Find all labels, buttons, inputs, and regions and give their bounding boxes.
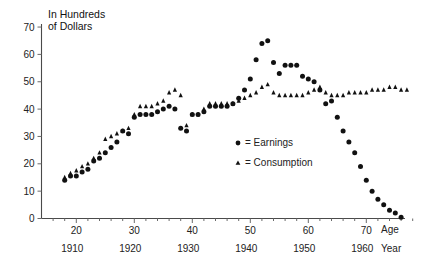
data-point-consumption bbox=[370, 87, 374, 91]
data-point-consumption bbox=[271, 90, 275, 94]
data-point-consumption bbox=[289, 93, 293, 97]
data-point-earnings bbox=[300, 74, 305, 79]
data-point-earnings bbox=[352, 150, 357, 155]
data-point-earnings bbox=[62, 178, 67, 183]
data-point-earnings bbox=[149, 112, 154, 117]
data-point-consumption bbox=[254, 90, 258, 94]
data-point-consumption bbox=[248, 93, 252, 97]
data-point-earnings bbox=[109, 145, 114, 150]
x-tick-label-year-1920: 1920 bbox=[119, 243, 142, 254]
data-point-consumption bbox=[387, 85, 391, 89]
x-tick-label-age-50: 50 bbox=[245, 225, 257, 236]
data-point-consumption bbox=[179, 93, 183, 97]
data-point-earnings bbox=[236, 96, 241, 101]
data-point-consumption bbox=[144, 104, 148, 108]
legend-label-consumption: = Consumption bbox=[245, 157, 313, 168]
x-tick-label-year-1960: 1960 bbox=[351, 243, 374, 254]
data-point-earnings bbox=[132, 115, 137, 120]
data-point-consumption bbox=[306, 90, 310, 94]
chart-figure: In Hundreds of Dollars 010203040506070 2… bbox=[0, 0, 424, 263]
data-point-consumption bbox=[80, 164, 84, 168]
data-point-consumption bbox=[364, 90, 368, 94]
data-point-earnings bbox=[312, 79, 317, 84]
data-point-earnings bbox=[271, 60, 276, 65]
data-point-earnings bbox=[184, 128, 189, 133]
y-tick-label-50: 50 bbox=[23, 76, 35, 87]
series-earnings-points bbox=[62, 38, 403, 219]
x-tick-label-year-1940: 1940 bbox=[235, 243, 258, 254]
data-point-earnings bbox=[248, 77, 253, 82]
data-point-earnings bbox=[370, 189, 375, 194]
data-point-consumption bbox=[283, 93, 287, 97]
x-tick-label-age-60: 60 bbox=[303, 225, 315, 236]
data-point-consumption bbox=[399, 87, 403, 91]
data-point-consumption bbox=[300, 93, 304, 97]
y-axis-ticks: 010203040506070 bbox=[23, 22, 41, 224]
data-point-consumption bbox=[138, 104, 142, 108]
data-point-earnings bbox=[259, 41, 264, 46]
y-tick-label-20: 20 bbox=[23, 158, 35, 169]
data-point-earnings bbox=[364, 178, 369, 183]
data-point-consumption bbox=[155, 101, 159, 105]
data-point-earnings bbox=[335, 115, 340, 120]
data-point-consumption bbox=[97, 150, 101, 154]
data-point-earnings bbox=[265, 38, 270, 43]
data-point-earnings bbox=[114, 139, 119, 144]
data-point-earnings bbox=[375, 197, 380, 202]
data-point-earnings bbox=[201, 109, 206, 114]
y-axis-title-line1: In Hundreds bbox=[48, 8, 105, 20]
data-point-consumption bbox=[312, 87, 316, 91]
data-point-consumption bbox=[74, 168, 78, 172]
data-point-consumption bbox=[115, 131, 119, 135]
x-tick-label-year-1930: 1930 bbox=[177, 243, 200, 254]
y-tick-label-70: 70 bbox=[23, 22, 35, 33]
data-point-consumption bbox=[103, 137, 107, 141]
data-point-earnings bbox=[85, 167, 90, 172]
data-point-consumption bbox=[150, 104, 154, 108]
data-point-earnings bbox=[341, 128, 346, 133]
data-point-earnings bbox=[317, 87, 322, 92]
x-tick-label-year-1950: 1950 bbox=[293, 243, 316, 254]
data-point-consumption bbox=[173, 87, 177, 91]
data-point-consumption bbox=[277, 93, 281, 97]
data-point-earnings bbox=[155, 109, 160, 114]
data-point-earnings bbox=[126, 131, 131, 136]
x-axis-year-title: Year bbox=[381, 243, 402, 254]
x-tick-label-age-40: 40 bbox=[187, 225, 199, 236]
data-point-consumption bbox=[341, 93, 345, 97]
x-tick-label-age-30: 30 bbox=[129, 225, 141, 236]
data-point-consumption bbox=[86, 161, 90, 165]
data-point-consumption bbox=[382, 87, 386, 91]
data-point-earnings bbox=[190, 112, 195, 117]
data-point-consumption bbox=[109, 134, 113, 138]
y-tick-label-0: 0 bbox=[29, 213, 35, 224]
y-axis-title-line2: of Dollars bbox=[48, 20, 92, 32]
data-point-earnings bbox=[80, 170, 85, 175]
data-point-earnings bbox=[225, 104, 230, 109]
x-axis-age-title: Age bbox=[381, 224, 399, 235]
data-point-earnings bbox=[161, 107, 166, 112]
data-point-consumption bbox=[266, 82, 270, 86]
data-point-earnings bbox=[143, 112, 148, 117]
data-point-consumption bbox=[167, 90, 171, 94]
data-point-earnings bbox=[283, 63, 288, 68]
x-axis-ticks bbox=[76, 219, 366, 224]
data-point-consumption bbox=[347, 90, 351, 94]
y-tick-label-30: 30 bbox=[23, 131, 35, 142]
data-point-earnings bbox=[242, 87, 247, 92]
legend-marker-consumption-icon bbox=[236, 160, 241, 164]
scatter-chart-canvas: In Hundreds of Dollars 010203040506070 2… bbox=[0, 0, 424, 263]
data-point-earnings bbox=[120, 128, 125, 133]
y-tick-label-60: 60 bbox=[23, 49, 35, 60]
x-axis-year-labels: 191019201930194019501960 bbox=[61, 243, 374, 254]
data-point-consumption bbox=[353, 90, 357, 94]
legend-label-earnings: = Earnings bbox=[245, 137, 293, 148]
data-point-earnings bbox=[213, 104, 218, 109]
data-point-earnings bbox=[387, 208, 392, 213]
data-point-consumption bbox=[260, 85, 264, 89]
data-point-earnings bbox=[74, 174, 79, 179]
data-point-earnings bbox=[196, 112, 201, 117]
data-point-earnings bbox=[219, 104, 224, 109]
data-point-earnings bbox=[91, 159, 96, 164]
data-point-earnings bbox=[381, 202, 386, 207]
